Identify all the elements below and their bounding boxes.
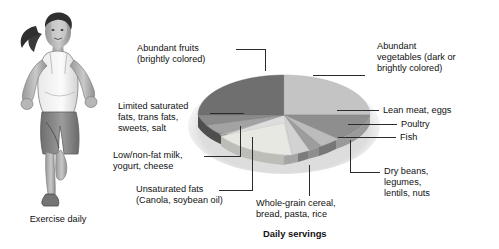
label-unsaturated-fats: Unsaturated fats (Canola, soybean oil): [136, 184, 223, 206]
leader-vegetables: [313, 75, 365, 76]
label-milk: Low/non-fat milk, yogurt, cheese: [113, 150, 182, 172]
leader-poultry: [348, 124, 397, 125]
label-fish: Fish: [400, 132, 417, 143]
label-lean-meat: Lean meat, eggs: [383, 105, 451, 116]
pie-slice-fruits: [198, 75, 284, 115]
label-abundant-fruits: Abundant fruits (brightly colored): [137, 43, 205, 65]
label-limited-fats: Limited saturated fats, trans fats, swee…: [118, 101, 188, 135]
leader-beans-v: [350, 140, 351, 173]
tank-top: [38, 51, 78, 116]
leg-back: [46, 152, 56, 200]
leader-limited-fats: [210, 113, 244, 114]
runner-illustration: [6, 4, 110, 212]
label-poultry: Poultry: [401, 119, 430, 130]
leader-wholegrain-v: [309, 165, 310, 196]
label-vegetables: Abundant vegetables (dark or brightly co…: [377, 41, 456, 75]
pie-slice-vegetables: [284, 75, 370, 115]
shoe: [42, 194, 59, 206]
leader-milk-h: [204, 156, 241, 157]
leader-unsat-h: [219, 190, 253, 191]
chart-caption: Daily servings: [263, 228, 327, 239]
pie-chart: [186, 52, 381, 192]
label-whole-grain: Whole-grain cereal, bread, pasta, rice: [256, 198, 336, 220]
leader-beans-h: [350, 172, 380, 173]
shorts: [41, 112, 79, 154]
leader-fruits-v: [265, 49, 266, 71]
leader-fish: [338, 137, 396, 138]
leader-milk-v: [240, 126, 241, 157]
leader-lean-meat: [337, 110, 379, 111]
leg-front: [56, 150, 67, 180]
leader-fruits-h: [236, 49, 266, 50]
leader-unsat-v: [252, 137, 253, 191]
label-dry-beans: Dry beans, legumes, lentils, nuts: [384, 166, 430, 200]
runner-caption: Exercise daily: [8, 214, 108, 224]
